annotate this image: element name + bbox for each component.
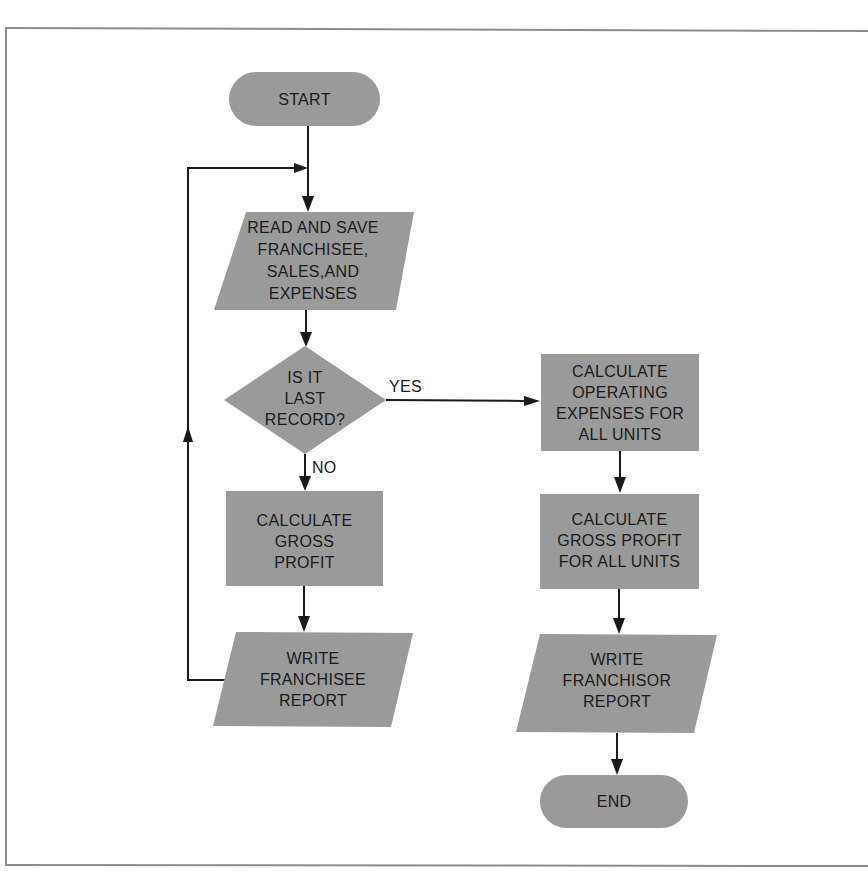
arrow-head-icon [614, 477, 626, 493]
node-end: END [540, 775, 688, 828]
node-write-franchisor: WRITE FRANCHISOR REPORT [516, 634, 717, 733]
node-write-franchisor-line-2: FRANCHISOR [563, 672, 672, 689]
node-decision-line-3: RECORD? [265, 411, 345, 428]
node-calc-gross-line-3: PROFIT [274, 554, 334, 571]
node-calc-gross-all-line-1: CALCULATE [572, 511, 668, 528]
node-write-franchisee: WRITE FRANCHISEE REPORT [213, 632, 413, 727]
node-calc-gross-line-2: GROSS [275, 533, 334, 550]
node-start-label: START [278, 91, 330, 108]
flowchart-canvas: START READ AND SAVE FRANCHISEE, SALES,AN… [0, 0, 868, 871]
node-write-franchisor-line-1: WRITE [590, 651, 643, 668]
arrow-head-icon [611, 759, 623, 775]
node-calc-gross: CALCULATE GROSS PROFIT [226, 491, 383, 586]
edge-label-yes: YES [389, 378, 422, 395]
node-read-line-4: EXPENSES [269, 285, 358, 302]
node-decision: IS IT LAST RECORD? [224, 346, 386, 454]
node-write-franchisee-line-1: WRITE [286, 650, 339, 667]
arrow-head-icon [613, 618, 625, 634]
node-decision-line-2: LAST [284, 390, 325, 407]
arrow-head-icon [299, 476, 311, 491]
node-start: START [229, 72, 380, 126]
frame-border [5, 27, 868, 866]
node-write-franchisee-line-3: REPORT [279, 692, 347, 709]
node-calc-operating-line-3: EXPENSES FOR [556, 405, 684, 422]
node-calc-gross-all-line-2: GROSS PROFIT [557, 532, 682, 549]
arrow-head-icon [300, 332, 312, 347]
node-read-line-1: READ AND SAVE [247, 219, 379, 236]
arrow-head-icon [183, 426, 193, 442]
node-read-line-3: SALES,AND [267, 263, 360, 280]
node-write-franchisor-line-3: REPORT [583, 693, 651, 710]
node-calc-operating-line-2: OPERATING [572, 384, 668, 401]
arrow-head-icon [298, 616, 310, 632]
node-calc-gross-all: CALCULATE GROSS PROFIT FOR ALL UNITS [540, 494, 699, 589]
node-end-label: END [597, 793, 632, 810]
node-calc-gross-all-line-3: FOR ALL UNITS [559, 553, 681, 570]
node-calc-operating: CALCULATE OPERATING EXPENSES FOR ALL UNI… [541, 354, 699, 451]
node-write-franchisee-line-2: FRANCHISEE [260, 671, 366, 688]
node-decision-line-1: IS IT [287, 369, 322, 386]
node-read-input: READ AND SAVE FRANCHISEE, SALES,AND EXPE… [214, 212, 414, 310]
edge-yes [386, 400, 528, 401]
arrow-head-icon [294, 163, 308, 173]
node-calc-operating-line-1: CALCULATE [572, 363, 668, 380]
arrow-head-icon [302, 196, 314, 212]
node-calc-gross-line-1: CALCULATE [257, 512, 353, 529]
arrow-head-icon [524, 396, 540, 406]
edge-label-no: NO [312, 459, 337, 476]
node-read-line-2: FRANCHISEE, [258, 241, 369, 258]
node-calc-operating-line-4: ALL UNITS [578, 426, 661, 443]
